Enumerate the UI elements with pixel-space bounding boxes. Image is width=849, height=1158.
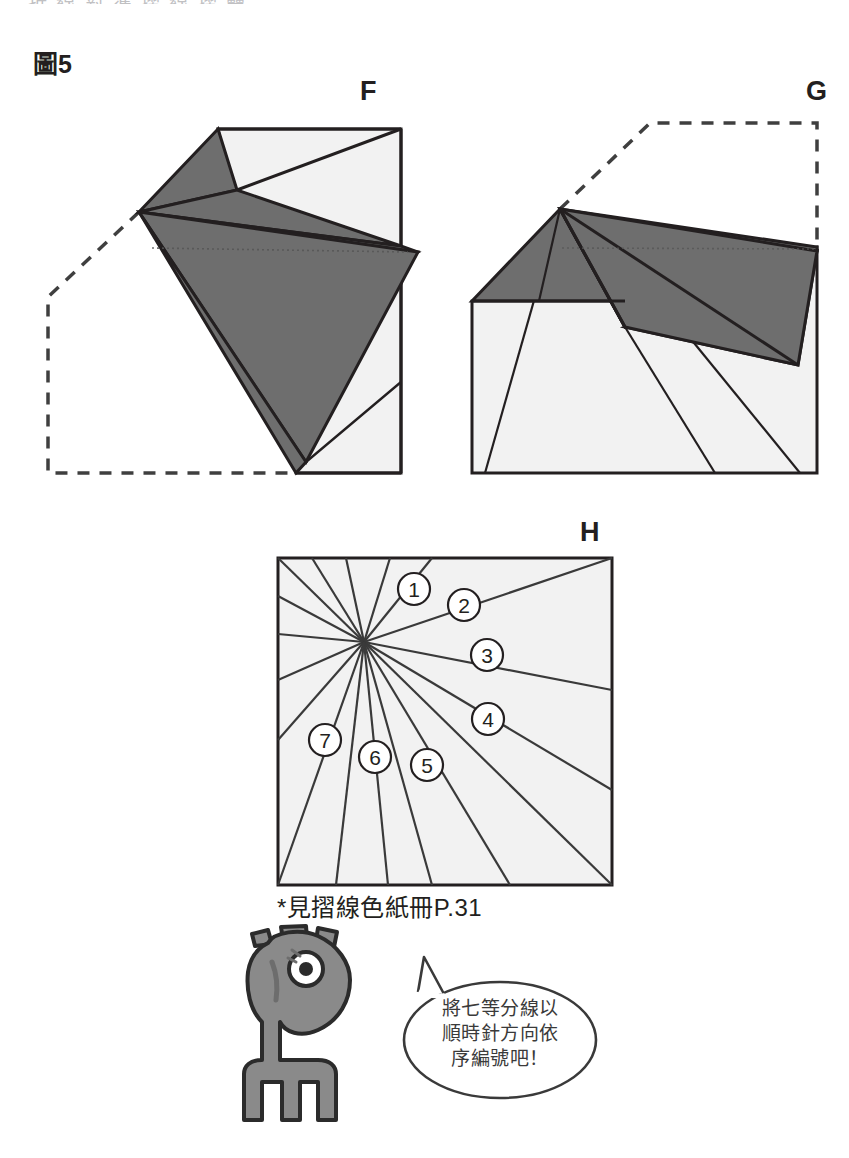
mascot-and-bubble xyxy=(0,0,849,1158)
mascot-character xyxy=(244,926,350,1120)
speech-bubble-line-3: 序編號吧！ xyxy=(417,1046,583,1071)
mascot-eye-pupil xyxy=(299,962,313,976)
speech-bubble-text: 將七等分線以 順時針方向依 序編號吧！ xyxy=(417,996,583,1071)
speech-bubble-line-1: 將七等分線以 xyxy=(417,996,583,1021)
speech-bubble-line-2: 順時針方向依 xyxy=(417,1021,583,1046)
page-canvas: 折 線 對 準 摺 線 摺 疊 圖5 F G H xyxy=(0,0,849,1158)
